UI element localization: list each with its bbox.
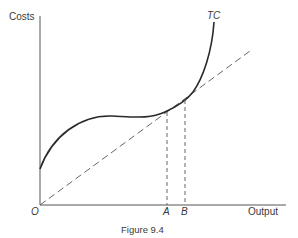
tc-curve: [40, 22, 214, 169]
figure-caption: Figure 9.4: [121, 224, 164, 235]
tc-label: TC: [207, 10, 220, 21]
cost-diagram: [0, 0, 298, 238]
y-axis-label: Costs: [9, 11, 35, 22]
origin-label: O: [31, 206, 39, 217]
point-a-label: A: [163, 206, 170, 217]
x-axis-label: Output: [248, 206, 278, 217]
point-b-label: B: [181, 206, 188, 217]
